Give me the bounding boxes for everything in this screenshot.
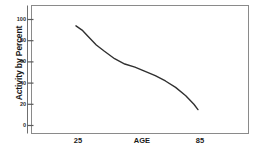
y-tick-label-0: 0	[10, 122, 26, 128]
y-tick-label-40: 40	[10, 80, 26, 86]
data-line-activity	[76, 26, 198, 110]
y-tick-label-100: 100	[10, 16, 26, 22]
x-tick-label-25: 25	[58, 136, 98, 145]
y-tick-label-60: 60	[10, 58, 26, 64]
x-axis-title: AGE	[122, 136, 162, 145]
y-tick-label-20: 20	[10, 101, 26, 107]
y-tick-marks	[28, 20, 34, 126]
chart-figure: Activity by Percent 100 80 60 40 20 0 25…	[0, 0, 254, 154]
y-tick-label-80: 80	[10, 37, 26, 43]
plot-area	[0, 0, 254, 154]
x-tick-label-85: 85	[180, 136, 220, 145]
